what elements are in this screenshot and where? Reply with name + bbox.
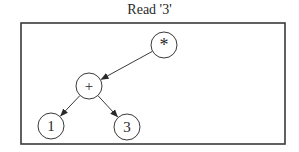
edge-mul-to-add	[101, 51, 152, 79]
node-label: 3	[123, 119, 131, 135]
node-label: +	[85, 78, 93, 94]
tree-node-add: +	[76, 73, 102, 99]
node-label: *	[160, 35, 169, 55]
tree-node-three: 3	[114, 114, 140, 140]
tree-node-one: 1	[38, 113, 64, 139]
edge-add-to-one	[61, 95, 80, 115]
node-label: 1	[47, 118, 55, 134]
edge-add-to-three	[98, 96, 118, 117]
expression-tree-diagram: *+13	[0, 0, 299, 152]
tree-node-mul: *	[151, 32, 177, 58]
